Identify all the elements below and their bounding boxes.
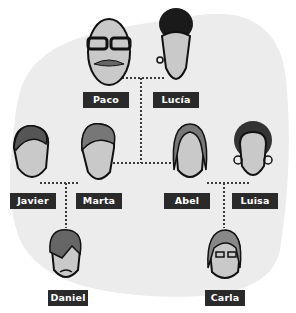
man-long-hair-icon [170,120,210,186]
person-label-luisa: Luisa [232,193,278,209]
person-label-paco: Paco [83,92,129,108]
person-label-abel: Abel [164,193,210,209]
grandfather-glasses-mustache-icon [84,12,134,88]
grandmother-bun-icon [156,6,196,92]
person-label-carla: Carla [205,290,245,306]
woman-short-hair-icon [78,120,118,186]
person-label-lucia: Lucía [153,92,199,108]
person-label-daniel: Daniel [48,290,88,306]
woman-curly-hair-icon [232,120,274,186]
boy-fringe-icon [48,228,84,284]
man-wavy-hair-icon [10,122,52,184]
person-label-javier: Javier [10,193,56,209]
girl-glasses-icon [206,228,244,286]
person-label-marta: Marta [76,193,122,209]
